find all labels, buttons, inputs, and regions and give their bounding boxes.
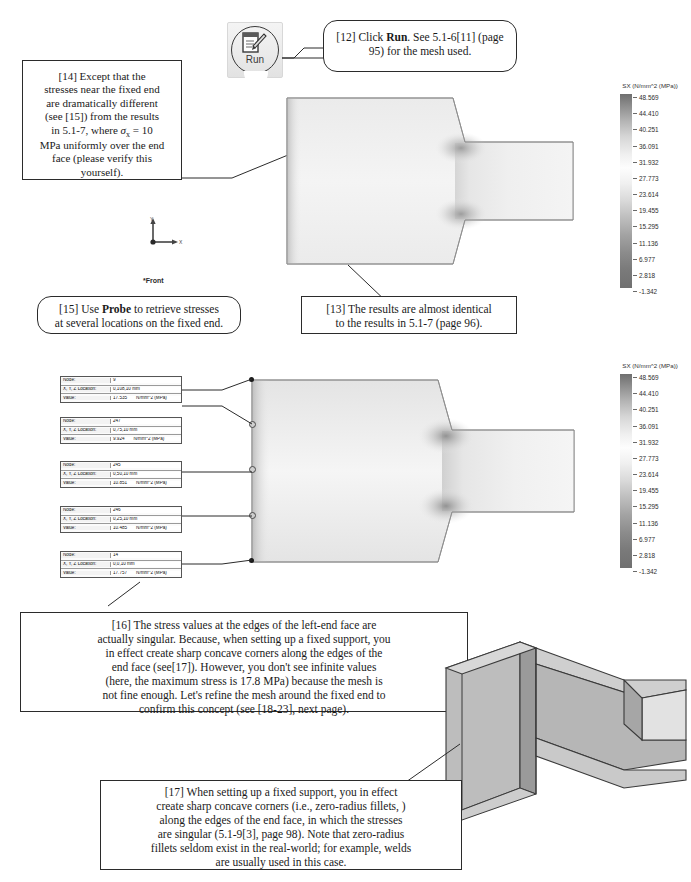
callout-12: [12] Click Run. See 5.1-6[11] (page 95) … <box>323 20 517 72</box>
probe-row-value: 9 <box>111 378 181 383</box>
colorbar-tick-mark <box>633 210 637 211</box>
run-button[interactable]: Run <box>227 22 283 78</box>
probe-row-value: 247 <box>111 419 181 424</box>
colorbar-tick-label: 15.295 <box>639 503 659 510</box>
callout-17: [17] When setting up a fixed support, yo… <box>100 780 462 870</box>
colorbar-tick-label: 44.410 <box>639 110 659 117</box>
probe-row-key: Value: <box>61 481 111 486</box>
colorbar-tick-mark <box>633 377 637 378</box>
axis-triad-icon: Y X <box>146 216 186 250</box>
probe-row: Node:14 <box>61 552 181 561</box>
probe-row-key: Node: <box>61 419 111 424</box>
colorbar-tick-label: 48.569 <box>639 374 659 381</box>
probe-row-value: 0,108,10 mm <box>111 387 181 392</box>
callout-14-line-2: stresses near the fixed end <box>23 83 181 96</box>
colorbar-title-top: SX (N/mm^2 (MPa)) <box>592 82 691 89</box>
isometric-model-sketch <box>428 620 691 840</box>
callout-13-line-2: to the results in 5.1-7 (page 96). <box>302 316 516 330</box>
probe-row: Value:10.851N/mm^2 (MPa) <box>61 479 181 487</box>
probe-row-key: Node: <box>61 463 111 468</box>
callout-14-line-3: are dramatically different <box>23 97 181 110</box>
leader-probe-247 <box>182 400 254 430</box>
colorbar-tick-label: 11.136 <box>639 239 658 246</box>
callout-17-line-4: are singular (5.1-9[3], page 98). Note t… <box>101 827 461 841</box>
colorbar-tick-label: 31.932 <box>639 158 659 165</box>
probe-row-value: 0,75,10 mm <box>111 428 181 433</box>
callout-14-line-7: face (please verify this <box>23 152 181 165</box>
colorbar-tick-label: 6.977 <box>639 255 655 262</box>
probe-row-value: 10.851N/mm^2 (MPa) <box>111 481 181 486</box>
colorbar-tick-label: 27.773 <box>639 454 659 461</box>
callout-17-line-3: along the edges of the end face, in whic… <box>101 813 461 827</box>
callout-13-line-1: [13] The results are almost identical <box>302 302 516 316</box>
probe-row-value: 246 <box>111 508 181 513</box>
colorbar-tick-label: 11.136 <box>639 519 658 526</box>
probe-row-key: Value: <box>61 437 111 442</box>
colorbar-title-bottom: SX (N/mm^2 (MPa)) <box>592 362 691 369</box>
colorbar-tick-mark <box>633 393 637 394</box>
colorbar-tick-mark <box>633 113 637 114</box>
colorbar-tick-mark <box>633 162 637 163</box>
colorbar-tick-mark <box>633 490 637 491</box>
probe-row-value: 245 <box>111 463 181 468</box>
colorbar-tick-label: 36.091 <box>639 142 659 149</box>
callout-15-line-1: [15] Use Probe to retrieve stresses <box>38 302 240 316</box>
colorbar-gradient-bottom <box>620 374 632 568</box>
colorbar-tick-mark <box>633 506 637 507</box>
colorbar-tick-label: -1.342 <box>639 288 657 295</box>
colorbar-tick-mark <box>633 194 637 195</box>
colorbar-tick-mark <box>633 539 637 540</box>
probe-value-unit: N/mm^2 (MPa) <box>134 437 165 441</box>
colorbar-tick-label: 27.773 <box>639 174 659 181</box>
colorbar-gradient-top <box>620 94 632 288</box>
callout-16-line-2: actually singular. Because, when setting… <box>21 632 467 646</box>
colorbar-tick-mark <box>633 97 637 98</box>
probe-table-node-246: Node:246X, Y, Z Location:0,25,10 mmValue… <box>60 506 182 533</box>
colorbar-tick-label: 19.455 <box>639 487 659 494</box>
colorbar-tick-mark <box>633 291 637 292</box>
probe-row-value: 0,50,10 mm <box>111 472 181 477</box>
probe-row: Value:17.535N/mm^2 (MPa) <box>61 394 181 402</box>
colorbar-tick-label: 6.977 <box>639 535 655 542</box>
probe-row: Node:245 <box>61 462 181 471</box>
probe-row-key: X, Y, Z Location: <box>61 387 111 392</box>
probe-row-key: Node: <box>61 553 111 558</box>
probe-value-unit: N/mm^2 (MPa) <box>136 481 167 485</box>
callout-16-line-7: confirm this concept (see [18-23], next … <box>21 702 467 716</box>
callout-12-text: [12] Click Run. See 5.1-6[11] (page 95) … <box>324 26 516 62</box>
run-button-label: Run <box>228 54 282 65</box>
callout-16-line-6: not fine enough. Let's refine the mesh a… <box>21 688 467 702</box>
stress-plot-bottom <box>250 378 576 564</box>
probe-row: Value:10.485N/mm^2 (MPa) <box>61 524 181 532</box>
callout-17-line-2: create sharp concave corners (i.e., zero… <box>101 799 461 813</box>
colorbar-tick-mark <box>633 458 637 459</box>
colorbar-tick-label: 48.569 <box>639 94 659 101</box>
probe-row-key: Node: <box>61 508 111 513</box>
probe-row-key: X, Y, Z Location: <box>61 472 111 477</box>
colorbar-tick-mark <box>633 226 637 227</box>
probe-table-node-9: Node:9X, Y, Z Location:0,108,10 mmValue:… <box>60 376 182 403</box>
probe-row: Node:9 <box>61 377 181 386</box>
leader-callout14-to-model <box>182 150 288 190</box>
probe-table-node-245: Node:245X, Y, Z Location:0,50,10 mmValue… <box>60 461 182 488</box>
probe-row: X, Y, Z Location:0,0,10 mm <box>61 561 181 570</box>
colorbar-tick-label: 15.295 <box>639 223 659 230</box>
colorbar-tick-mark <box>633 442 637 443</box>
probe-table-node-14: Node:14X, Y, Z Location:0,0,10 mmValue:1… <box>60 551 182 578</box>
colorbar-tick-mark <box>633 146 637 147</box>
leader-probe-245 <box>182 468 254 478</box>
colorbar-tick-label: 44.410 <box>639 390 659 397</box>
colorbar-tick-mark <box>633 555 637 556</box>
probe-row: Node:247 <box>61 418 181 427</box>
callout-13: [13] The results are almost identical to… <box>301 296 517 334</box>
probe-value-unit: N/mm^2 (MPa) <box>136 396 167 400</box>
probe-row: X, Y, Z Location:0,25,10 mm <box>61 516 181 525</box>
callout-14-line-4: (see [15]) from the results <box>23 110 181 123</box>
colorbar-tick-mark <box>633 523 637 524</box>
callout-17-line-5: fillets seldom exist in the real-world; … <box>101 841 461 855</box>
probe-row-key: X, Y, Z Location: <box>61 428 111 433</box>
probe-row-key: X, Y, Z Location: <box>61 517 111 522</box>
colorbar-tick-mark <box>633 178 637 179</box>
probe-row: X, Y, Z Location:0,50,10 mm <box>61 471 181 480</box>
leader-probe-14 <box>182 556 254 568</box>
